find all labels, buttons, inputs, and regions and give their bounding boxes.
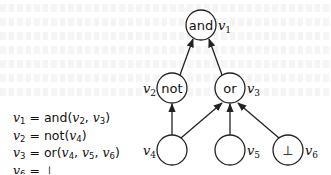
edge-v6-v3 [238, 103, 279, 138]
node-v1-label: and [189, 18, 213, 33]
equation-v1: v1 = and(v2, v3) [13, 111, 120, 129]
node-v5: v5 [215, 135, 260, 165]
edge-v4-v3 [181, 103, 222, 138]
node-v4-var: v4 [143, 143, 156, 160]
equation-v2: v2 = not(v4) [13, 129, 120, 147]
node-v3: or v3 [215, 73, 260, 103]
node-v2: not v2 [143, 73, 187, 103]
equation-v3: v3 = or(v4, v5, v6) [13, 146, 120, 164]
equation-v6: v6 = ⊥ [13, 164, 120, 175]
node-v5-var: v5 [247, 143, 260, 160]
node-v6-label: ⊥ [282, 143, 293, 158]
node-v3-label: or [223, 81, 237, 96]
node-v3-var: v3 [247, 81, 260, 98]
node-v6: ⊥ v6 [273, 135, 318, 165]
node-v1-var: v1 [218, 18, 231, 35]
node-v2-var: v2 [143, 81, 156, 98]
node-v4: v4 [143, 135, 187, 165]
node-v6-var: v6 [305, 143, 318, 160]
edge-v3-v1 [209, 39, 222, 75]
equation-list: v1 = and(v2, v3) v2 = not(v4) v3 = or(v4… [13, 111, 120, 174]
edge-v2-v1 [180, 39, 193, 75]
node-v1: and v1 [186, 10, 231, 40]
node-v2-label: not [161, 81, 182, 96]
